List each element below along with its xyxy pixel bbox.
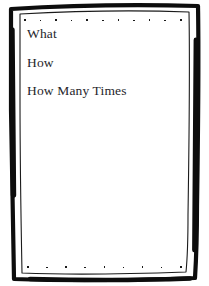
decorative-dot xyxy=(40,20,42,22)
decorative-dot xyxy=(118,19,120,21)
text-line-how: How xyxy=(27,56,187,70)
decorative-dot xyxy=(180,266,182,268)
decorative-dot xyxy=(149,19,151,21)
decorative-dot xyxy=(27,266,29,268)
text-line-what: What xyxy=(27,27,187,41)
decorative-dot xyxy=(133,20,135,22)
page-content: What How How Many Times xyxy=(0,0,209,286)
decorative-dot xyxy=(102,20,104,22)
text-line-how-many-times: How Many Times xyxy=(27,84,187,98)
slide-page: What How How Many Times xyxy=(0,0,209,286)
text-list: What How How Many Times xyxy=(27,27,187,98)
bottom-dot-row xyxy=(27,266,182,270)
decorative-dot xyxy=(104,266,106,268)
decorative-dot xyxy=(161,267,163,269)
decorative-dot xyxy=(84,267,86,269)
top-dot-row xyxy=(24,19,182,23)
decorative-dot xyxy=(142,266,144,268)
decorative-dot xyxy=(123,267,125,269)
decorative-dot xyxy=(164,20,166,22)
decorative-dot xyxy=(46,267,48,269)
decorative-dot xyxy=(86,19,88,21)
decorative-dot xyxy=(55,19,57,21)
decorative-dot xyxy=(24,19,26,21)
decorative-dot xyxy=(71,20,73,22)
decorative-dot xyxy=(180,19,182,21)
decorative-dot xyxy=(65,266,67,268)
